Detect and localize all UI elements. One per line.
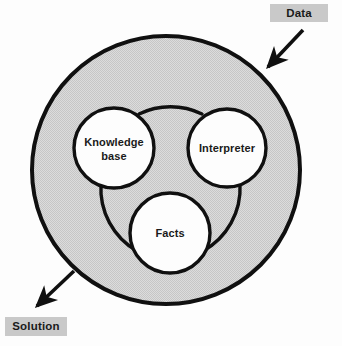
solution-output-arrow [37,271,74,306]
diagram-figure: Knowledge base Interpreter Facts Data So [0,0,342,346]
node-knowledge-base-circle [74,108,154,188]
node-knowledge-base-label-line2: base [101,150,126,162]
node-interpreter[interactable]: Interpreter [188,109,266,187]
node-knowledge-base-label-line1: Knowledge [84,136,144,148]
solution-label-text: Solution [12,320,60,332]
node-facts-label: Facts [155,227,184,239]
node-knowledge-base[interactable]: Knowledge base [74,108,154,188]
node-interpreter-label: Interpreter [199,142,256,154]
data-input-arrow [268,30,303,67]
solution-label: Solution [5,317,67,336]
expert-system-diagram: Knowledge base Interpreter Facts Data So [0,0,342,346]
data-label: Data [270,4,328,22]
node-facts[interactable]: Facts [130,193,210,273]
data-label-text: Data [286,7,312,19]
